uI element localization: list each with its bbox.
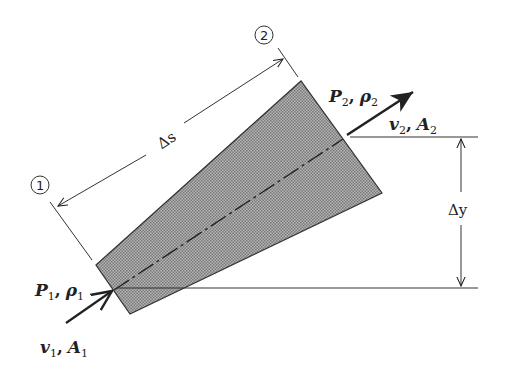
delta-s-arrow-left bbox=[58, 155, 146, 206]
stream-tube-diagram: Δy Δs 1 2 P1,ρ1 v1,A1 P2,ρ2 v2,A2 bbox=[0, 0, 510, 376]
stream-tube bbox=[96, 81, 382, 314]
inlet-pressure-density-label: P1,ρ1 bbox=[34, 280, 84, 303]
inlet-velocity-area-label: v1,A1 bbox=[40, 337, 88, 360]
section-1-extension bbox=[50, 202, 92, 260]
svg-text:1: 1 bbox=[36, 178, 44, 193]
section-2-extension bbox=[278, 48, 298, 77]
section-marker-2: 2 bbox=[255, 26, 273, 44]
outlet-velocity-area-label: v2,A2 bbox=[389, 114, 437, 137]
svg-text:2: 2 bbox=[260, 28, 268, 43]
section-marker-1: 1 bbox=[31, 176, 49, 194]
delta-y-label: Δy bbox=[448, 201, 468, 219]
outlet-pressure-density-label: P2,ρ2 bbox=[328, 86, 378, 109]
delta-s-label: Δs bbox=[154, 128, 179, 153]
